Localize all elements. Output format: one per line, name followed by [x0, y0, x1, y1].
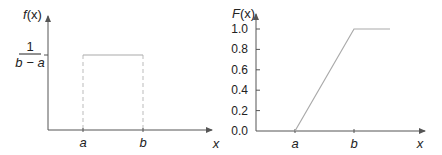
cdf-chart: 1.0 0.8 0.6 0.4 0.2 0.0 F(x) a b x	[231, 6, 425, 151]
cdf-y-ticks	[256, 29, 260, 111]
cdf-line	[295, 29, 390, 131]
cdf-y-label: F(x)	[232, 6, 255, 21]
svg-text:0.4: 0.4	[231, 83, 248, 97]
pdf-x-tick-label-b: b	[139, 135, 146, 150]
cdf-x-tick-label-a: a	[291, 136, 298, 151]
svg-text:0.6: 0.6	[231, 63, 248, 77]
pdf-chart: f(x) 1 b − a a b x	[15, 7, 219, 151]
pdf-x-tick-label-a: a	[79, 135, 86, 150]
pdf-frac-denominator: b − a	[15, 55, 44, 70]
svg-text:1.0: 1.0	[231, 22, 248, 36]
pdf-x-label: x	[212, 136, 220, 151]
pdf-y-label: f(x)	[23, 7, 42, 22]
svg-text:0.0: 0.0	[231, 124, 248, 138]
cdf-x-tick-label-b: b	[350, 136, 357, 151]
charts-canvas: f(x) 1 b − a a b x 1.0 0.8 0.6 0.4 0.2 0…	[0, 0, 442, 155]
cdf-x-label: x	[416, 136, 424, 151]
cdf-y-tick-labels: 1.0 0.8 0.6 0.4 0.2 0.0	[231, 22, 248, 138]
svg-text:0.2: 0.2	[231, 104, 248, 118]
svg-text:0.8: 0.8	[231, 42, 248, 56]
pdf-frac-numerator: 1	[26, 39, 33, 54]
